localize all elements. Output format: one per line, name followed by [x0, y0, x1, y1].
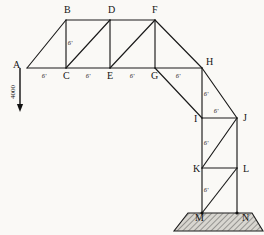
truss-member-e-f: [110, 20, 155, 68]
dim-E-G: 6': [130, 72, 135, 79]
truss-member-c-d: [66, 20, 110, 68]
dim-I-J: 6': [214, 107, 219, 114]
node-label-n: N: [242, 212, 249, 223]
dim-B-C: 6': [68, 39, 73, 46]
node-label-c: C: [63, 70, 70, 81]
load-magnitude-label: 4000: [9, 85, 17, 100]
node-label-e: E: [107, 70, 113, 81]
node-label-g: G: [151, 70, 158, 81]
truss-diagram-figure: ABCDEFGHIJKLMN 6'6'6'6'6'6'6'6'6' 4000: [0, 0, 264, 235]
node-label-a: A: [13, 59, 21, 70]
support-point-n: [235, 211, 238, 214]
node-label-f: F: [152, 4, 158, 15]
node-label-l: L: [243, 163, 249, 174]
node-label-j: J: [243, 112, 247, 123]
foundation-group: [174, 213, 263, 231]
node-label-m: M: [195, 212, 204, 223]
load-arrow-group: [17, 68, 23, 112]
dim-C-E: 6': [86, 72, 91, 79]
dim-A-C: 6': [42, 72, 47, 79]
node-label-h: H: [206, 56, 213, 67]
truss-member-a-b: [27, 20, 66, 68]
truss-members-group: [27, 20, 237, 213]
node-label-b: B: [64, 4, 71, 15]
node-label-d: D: [108, 4, 115, 15]
truss-svg-canvas: ABCDEFGHIJKLMN 6'6'6'6'6'6'6'6'6' 4000: [0, 0, 264, 235]
truss-member-f-h: [155, 20, 202, 68]
foundation-hatching: [174, 213, 263, 231]
load-arrow-head: [17, 104, 23, 112]
node-label-i: I: [194, 113, 197, 124]
node-label-k: K: [193, 163, 201, 174]
dim-I-K: 6': [204, 139, 209, 146]
dim-K-M: 6': [204, 186, 209, 193]
dim-G-H: 6': [176, 72, 181, 79]
dim-H-I: 6': [204, 90, 209, 97]
